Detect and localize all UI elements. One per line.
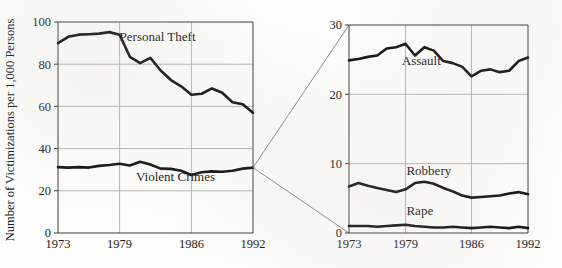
series-label-robbery: Robbery (406, 163, 451, 178)
x-tick-label-1992: 1992 (241, 237, 266, 251)
y-tick-label-20: 20 (39, 184, 52, 198)
y-tick-label-100: 100 (32, 15, 51, 29)
y-axis-title: Number of Victimizations per 1,000 Perso… (3, 19, 17, 242)
y-tick-label-10: 10 (330, 157, 343, 171)
x-tick-label-1986: 1986 (459, 237, 484, 251)
y-tick-label-60: 60 (39, 100, 52, 114)
y-tick-label-30: 30 (330, 18, 343, 32)
y-tick-label-80: 80 (39, 58, 52, 72)
x-tick-label-1979: 1979 (107, 237, 132, 251)
series-line-personal-theft (58, 32, 253, 113)
series-line-robbery (349, 182, 528, 198)
series-label-rape: Rape (406, 203, 433, 218)
series-label-violent-crimes: Violent Crimes (136, 169, 215, 184)
series-line-rape (349, 225, 528, 228)
x-tick-label-1986: 1986 (179, 237, 204, 251)
y-tick-label-40: 40 (39, 142, 52, 156)
figure-root: Number of Victimizations per 1,000 Perso… (0, 0, 562, 268)
x-tick-label-1973: 1973 (337, 237, 362, 251)
x-tick-label-1992: 1992 (516, 237, 541, 251)
y-tick-label-20: 20 (330, 88, 343, 102)
lower-connector (253, 168, 349, 233)
plot-frame (58, 22, 253, 233)
chart-right: 01020301973197919861992AssaultRobberyRap… (330, 18, 541, 251)
chart-left: 0204060801001973197919861992Personal The… (32, 15, 265, 251)
x-tick-label-1973: 1973 (46, 237, 71, 251)
connector-lines (253, 25, 349, 233)
series-label-assault: Assault (402, 53, 441, 68)
x-tick-label-1979: 1979 (393, 237, 418, 251)
victimization-rates-figure: Number of Victimizations per 1,000 Perso… (0, 0, 562, 268)
series-label-personal-theft: Personal Theft (120, 29, 196, 44)
